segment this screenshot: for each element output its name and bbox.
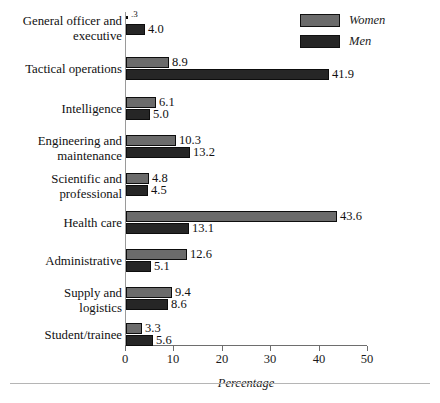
category-label-line: executive (0, 29, 122, 44)
bar-value-women: 12.6 (190, 247, 212, 261)
bar-men[interactable] (126, 109, 150, 120)
category-label-engineering-and-maintenance: Engineering and maintenance (0, 134, 122, 163)
bar-value-men: 5.6 (156, 333, 172, 347)
x-tick-40 (319, 346, 320, 351)
bar-men[interactable] (126, 223, 189, 234)
bar-women[interactable] (126, 135, 176, 146)
category-label-intelligence: Intelligence (0, 102, 122, 117)
x-ticklabel-50: 50 (352, 352, 382, 367)
bar-women[interactable] (126, 211, 337, 222)
bar-men[interactable] (126, 185, 148, 196)
bar-value-women: 43.6 (340, 209, 362, 223)
bar-women[interactable] (126, 173, 149, 184)
bottom-divider (10, 383, 430, 384)
category-label-line: logistics (0, 301, 122, 316)
bar-men[interactable] (126, 299, 168, 310)
category-label-line: maintenance (0, 149, 122, 164)
x-ticklabel-40: 40 (304, 352, 334, 367)
category-label-line: Supply and (0, 286, 122, 301)
bar-chart-figure: Women Men 0 10 20 30 40 50 General offic… (0, 0, 440, 403)
category-label-supply-and-logistics: Supply and logistics (0, 286, 122, 315)
bar-women[interactable] (126, 287, 172, 298)
category-label-student-trainee: Student/trainee (0, 328, 122, 343)
category-label-tactical-operations: Tactical operations (0, 62, 122, 77)
x-tick-50 (367, 346, 368, 351)
bar-value-men: 5.0 (153, 107, 169, 121)
x-ticklabel-20: 20 (207, 352, 237, 367)
bar-value-men: 13.2 (193, 145, 215, 159)
bar-men[interactable] (126, 261, 151, 272)
bar-value-men: 13.1 (192, 221, 214, 235)
x-tick-0 (125, 346, 126, 351)
bar-value-women: 8.9 (172, 55, 188, 69)
category-label-administrative: Administrative (0, 254, 122, 269)
category-label-line: Scientific and (0, 172, 122, 187)
category-label-general-officer-and-executive: General officer and executive (0, 14, 122, 43)
bar-men[interactable] (126, 24, 145, 35)
category-label-line: Engineering and (0, 134, 122, 149)
category-label-line: Intelligence (0, 102, 122, 117)
category-label-line: General officer and (0, 14, 122, 29)
bar-women[interactable] (126, 57, 169, 68)
bar-value-women: .3 (131, 7, 138, 21)
bar-value-men: 5.1 (154, 259, 170, 273)
category-label-line: Student/trainee (0, 328, 122, 343)
category-label-line: Tactical operations (0, 62, 122, 77)
bar-women[interactable] (126, 16, 128, 19)
x-tick-30 (270, 346, 271, 351)
bar-men[interactable] (126, 147, 190, 158)
category-label-line: Administrative (0, 254, 122, 269)
bar-women[interactable] (126, 97, 156, 108)
bar-men[interactable] (126, 335, 153, 346)
category-label-line: professional (0, 187, 122, 202)
category-label-scientific-and-professional: Scientific and professional (0, 172, 122, 201)
x-ticklabel-0: 0 (110, 352, 140, 367)
bar-men[interactable] (126, 69, 329, 80)
plot-area: 0 10 20 30 40 50 General officer and exe… (0, 10, 440, 350)
x-tick-20 (222, 346, 223, 351)
category-label-health-care: Health care (0, 216, 122, 231)
bar-value-men: 4.0 (148, 22, 164, 36)
bar-value-men: 41.9 (332, 67, 354, 81)
category-label-line: Health care (0, 216, 122, 231)
x-ticklabel-10: 10 (158, 352, 188, 367)
x-ticklabel-30: 30 (255, 352, 285, 367)
x-tick-10 (173, 346, 174, 351)
bar-value-men: 4.5 (151, 183, 167, 197)
bar-value-men: 8.6 (171, 297, 187, 311)
bar-women[interactable] (126, 323, 142, 334)
